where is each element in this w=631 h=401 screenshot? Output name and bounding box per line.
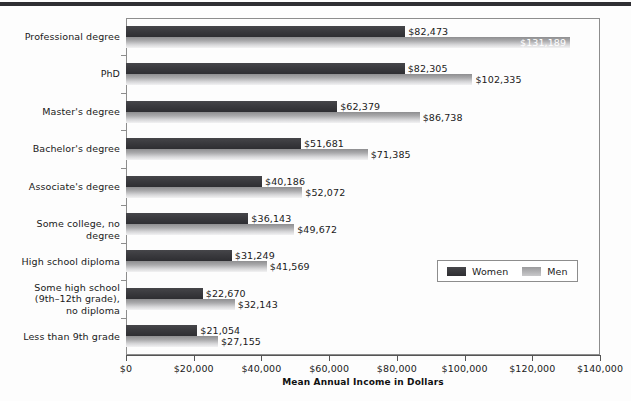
bar-men[interactable] bbox=[126, 187, 302, 198]
bar-men[interactable] bbox=[126, 336, 218, 347]
x-axis-tick-label: $40,000 bbox=[241, 363, 281, 374]
category-label-line: PhD bbox=[0, 68, 120, 80]
x-axis-tick bbox=[329, 355, 330, 361]
bar-group: $22,670$32,143 bbox=[126, 288, 600, 310]
category-label-line: Bachelor's degree bbox=[0, 143, 120, 155]
category-label: Some high school(9th–12th grade),no dipl… bbox=[0, 282, 120, 317]
category-label-line: no diploma bbox=[0, 305, 120, 317]
bar-group: $36,143$49,672 bbox=[126, 213, 600, 235]
bar-value-label: $102,335 bbox=[475, 74, 521, 85]
x-axis-tick-label: $20,000 bbox=[174, 363, 214, 374]
bar-value-label: $51,681 bbox=[304, 138, 344, 149]
x-axis-tick-label: $0 bbox=[120, 363, 132, 374]
y-axis-tick bbox=[121, 168, 126, 169]
y-axis-tick bbox=[121, 280, 126, 281]
x-axis-tick-label: $120,000 bbox=[509, 363, 555, 374]
bar-value-label: $41,569 bbox=[270, 261, 310, 272]
bar-value-label: $62,379 bbox=[340, 101, 380, 112]
bar-value-label: $71,385 bbox=[371, 149, 411, 160]
bar-men[interactable] bbox=[126, 112, 420, 123]
category-label: High school diploma bbox=[0, 256, 120, 268]
category-label-line: High school diploma bbox=[0, 256, 120, 268]
x-axis-tick-label: $80,000 bbox=[377, 363, 417, 374]
x-axis-tick bbox=[126, 355, 127, 361]
bar-value-label: $86,738 bbox=[423, 112, 463, 123]
category-label: Associate's degree bbox=[0, 181, 120, 193]
x-axis-line bbox=[126, 355, 600, 356]
category-label-line: (9th–12th grade), bbox=[0, 293, 120, 305]
bar-group: $51,681$71,385 bbox=[126, 138, 600, 160]
category-label: Master's degree bbox=[0, 106, 120, 118]
plot-area: $82,473$131,189$82,305$102,335$62,379$86… bbox=[126, 18, 600, 355]
chart-page: Professional degreePhDMaster's degreeBac… bbox=[0, 0, 631, 401]
x-axis-title: Mean Annual Income in Dollars bbox=[126, 377, 600, 387]
x-axis-tick bbox=[397, 355, 398, 361]
y-axis-tick bbox=[121, 130, 126, 131]
bar-value-label: $82,305 bbox=[408, 63, 448, 74]
x-axis-tick-label: $100,000 bbox=[441, 363, 487, 374]
category-label-line: Some college, no degree bbox=[0, 218, 120, 241]
bar-value-label: $27,155 bbox=[221, 336, 261, 347]
y-axis-tick bbox=[121, 243, 126, 244]
category-label-line: Master's degree bbox=[0, 106, 120, 118]
legend-item-women[interactable]: Women bbox=[447, 266, 508, 277]
bar-women[interactable] bbox=[126, 213, 248, 224]
bar-group: $40,186$52,072 bbox=[126, 176, 600, 198]
legend-swatch-men-icon bbox=[522, 267, 541, 276]
category-label: Professional degree bbox=[0, 31, 120, 43]
bar-group: $21,054$27,155 bbox=[126, 325, 600, 347]
x-axis-tick bbox=[261, 355, 262, 361]
bar-value-label: $131,189 bbox=[520, 37, 566, 48]
bar-women[interactable] bbox=[126, 63, 405, 74]
bar-women[interactable] bbox=[126, 288, 203, 299]
legend-swatch-women-icon bbox=[447, 267, 466, 276]
bar-group: $82,305$102,335 bbox=[126, 63, 600, 85]
bar-men[interactable] bbox=[126, 299, 235, 310]
bar-value-label: $22,670 bbox=[206, 288, 246, 299]
bar-value-label: $82,473 bbox=[408, 26, 448, 37]
x-axis-tick-label: $60,000 bbox=[309, 363, 349, 374]
bar-value-label: $40,186 bbox=[265, 176, 305, 187]
category-label-line: Professional degree bbox=[0, 31, 120, 43]
category-label: Bachelor's degree bbox=[0, 143, 120, 155]
y-axis-tick bbox=[121, 93, 126, 94]
category-label-line: Less than 9th grade bbox=[0, 331, 120, 343]
bar-value-label: $52,072 bbox=[305, 187, 345, 198]
bar-men[interactable] bbox=[126, 261, 267, 272]
x-axis-tick bbox=[194, 355, 195, 361]
bar-value-label: $21,054 bbox=[200, 325, 240, 336]
bar-group: $82,473$131,189 bbox=[126, 26, 600, 48]
bar-value-label: $32,143 bbox=[238, 299, 278, 310]
bar-women[interactable] bbox=[126, 176, 262, 187]
y-axis-tick bbox=[121, 55, 126, 56]
bar-men[interactable] bbox=[126, 37, 570, 48]
legend-label-men: Men bbox=[547, 266, 567, 277]
top-rule-divider bbox=[0, 2, 631, 6]
bar-men[interactable] bbox=[126, 74, 472, 85]
bar-value-label: $49,672 bbox=[297, 224, 337, 235]
legend-label-women: Women bbox=[472, 266, 508, 277]
legend-item-men[interactable]: Men bbox=[522, 266, 567, 277]
x-axis-tick bbox=[532, 355, 533, 361]
bar-men[interactable] bbox=[126, 224, 294, 235]
category-axis-labels: Professional degreePhDMaster's degreeBac… bbox=[0, 18, 120, 355]
bar-women[interactable] bbox=[126, 250, 232, 261]
category-label-line: Some high school bbox=[0, 282, 120, 294]
bar-men[interactable] bbox=[126, 149, 368, 160]
category-label-line: Associate's degree bbox=[0, 181, 120, 193]
x-axis-tick-label: $140,000 bbox=[577, 363, 623, 374]
category-label: Some college, no degree bbox=[0, 218, 120, 241]
bar-women[interactable] bbox=[126, 101, 337, 112]
chart-legend[interactable]: Women Men bbox=[437, 260, 578, 282]
bar-group: $62,379$86,738 bbox=[126, 101, 600, 123]
category-label: Less than 9th grade bbox=[0, 331, 120, 343]
y-axis-tick bbox=[121, 318, 126, 319]
bar-value-label: $31,249 bbox=[235, 250, 275, 261]
y-axis-tick bbox=[121, 205, 126, 206]
bar-value-label: $36,143 bbox=[251, 213, 291, 224]
x-axis-tick bbox=[600, 355, 601, 361]
category-label: PhD bbox=[0, 68, 120, 80]
bar-women[interactable] bbox=[126, 26, 405, 37]
bar-women[interactable] bbox=[126, 325, 197, 336]
bar-women[interactable] bbox=[126, 138, 301, 149]
